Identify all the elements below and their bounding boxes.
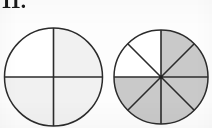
circle-right-center-dot (159, 75, 163, 79)
circle-right-group (114, 30, 208, 124)
circle-left-group (5, 28, 103, 126)
figure-page: 11. (0, 0, 212, 128)
fraction-circles-figure (0, 0, 212, 128)
